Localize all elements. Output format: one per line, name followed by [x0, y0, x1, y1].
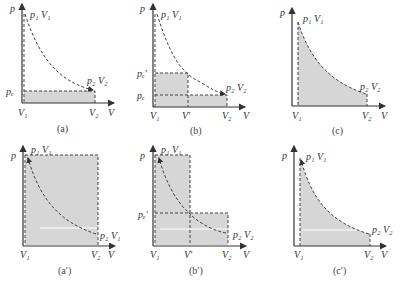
v2-label: V₂ — [364, 249, 374, 260]
state1-label: p₁ V₁ — [160, 144, 182, 155]
p-axis-label: p — [281, 150, 287, 161]
v1-label: V₁ — [294, 249, 304, 260]
state2-label: p₂ V₂ — [371, 224, 393, 235]
p-axis-label: p — [10, 150, 16, 161]
state2-label: p₂ V₂ — [225, 82, 247, 93]
pe-label: pₑ — [136, 90, 145, 101]
state2-label: p₂ V₂ — [359, 81, 381, 92]
state1-label: p₁ V₁ — [29, 9, 51, 20]
v2-label: V₂ — [362, 110, 372, 121]
v1-label: V₁ — [150, 249, 160, 260]
v-axis-label: V — [381, 249, 389, 260]
pe-prime-label: pₑ′ — [136, 68, 148, 79]
state2-label: p₂ V₂ — [86, 75, 108, 86]
caption-a-prime: (a′) — [58, 265, 71, 277]
p-axis-label: p — [139, 150, 145, 161]
v1-label: V₁ — [18, 107, 28, 118]
state1-label: p₁ V₁ — [30, 144, 52, 155]
pe-prime-label: pₑ′ — [137, 209, 149, 220]
panel-b-prime: p p₁ V₁ p₂ V₂ pₑ′ V₁ V′ V₂ V (b′) — [137, 144, 254, 277]
p-axis-label: p — [139, 3, 145, 14]
v1-label: V₁ — [150, 110, 160, 121]
state1-label: p₁ V₁ — [160, 9, 182, 20]
state2-label: p₂ V₁ — [99, 230, 121, 241]
p-axis-label: p — [279, 7, 285, 18]
caption-c: (c) — [332, 125, 343, 137]
v1-label: V₁ — [20, 249, 30, 260]
panel-c-prime: p p₁ V₁ p₂ V₂ V₁ V₂ V (c′) — [281, 146, 393, 277]
p-axis-label: p — [9, 3, 15, 14]
pe-label: pₑ — [5, 86, 14, 97]
panel-c: p p₁ V₁ p₂ V₂ V₁ V₂ V (c) — [279, 7, 389, 137]
panel-a-prime: p p₁ V₁ p₂ V₁ V₁ V₂ V (a′) — [10, 144, 121, 277]
v2-label: V₂ — [89, 107, 99, 118]
pv-diagrams: p p₁ V₁ p₂ V₂ pₑ V₁ V₂ V (a) p p₁ V₁ p₂ … — [0, 0, 401, 290]
v2-label: V₂ — [222, 249, 232, 260]
panel-b: p p₁ V₁ p₂ V₂ pₑ′ pₑ V₁ V′ V₂ V (b) — [136, 3, 251, 137]
v-axis-label: V — [243, 249, 251, 260]
caption-a: (a) — [57, 123, 68, 135]
vprime-label: V′ — [182, 110, 191, 121]
caption-b: (b) — [190, 125, 202, 137]
v-axis-label: V — [108, 249, 116, 260]
v-axis-label: V — [108, 107, 116, 118]
state1-label: p₁ V₁ — [305, 151, 327, 162]
v-axis-label: V — [243, 110, 251, 121]
state2-label: p₂ V₂ — [232, 229, 254, 240]
vprime-label: V′ — [184, 249, 193, 260]
v2-label: V₂ — [91, 249, 101, 260]
caption-c-prime: (c′) — [333, 265, 346, 277]
v2-label: V₂ — [222, 110, 232, 121]
state1-label: p₁ V₁ — [302, 13, 324, 24]
v1-label: V₁ — [292, 110, 302, 121]
caption-b-prime: (b′) — [189, 265, 203, 277]
v-axis-label: V — [381, 110, 389, 121]
panel-a: p p₁ V₁ p₂ V₂ pₑ V₁ V₂ V (a) — [5, 3, 116, 135]
